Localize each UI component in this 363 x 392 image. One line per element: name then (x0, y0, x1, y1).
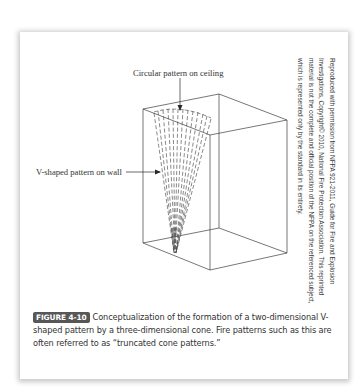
figure-caption: FIGURE 4-10Conceptualization of the form… (33, 311, 343, 351)
wall-pattern-label: V-shaped pattern on wall (36, 168, 122, 177)
permission-credit: Reproduced with permission from NFPA 921… (261, 58, 337, 304)
permission-credit-text: Reproduced with permission from NFPA 921… (295, 58, 337, 304)
figure-number-badge: FIGURE 4-10 (33, 312, 90, 323)
ceiling-pattern-label: Circular pattern on ceiling (133, 69, 223, 78)
page: Circular pattern on ceiling V-shaped pat… (0, 0, 363, 392)
